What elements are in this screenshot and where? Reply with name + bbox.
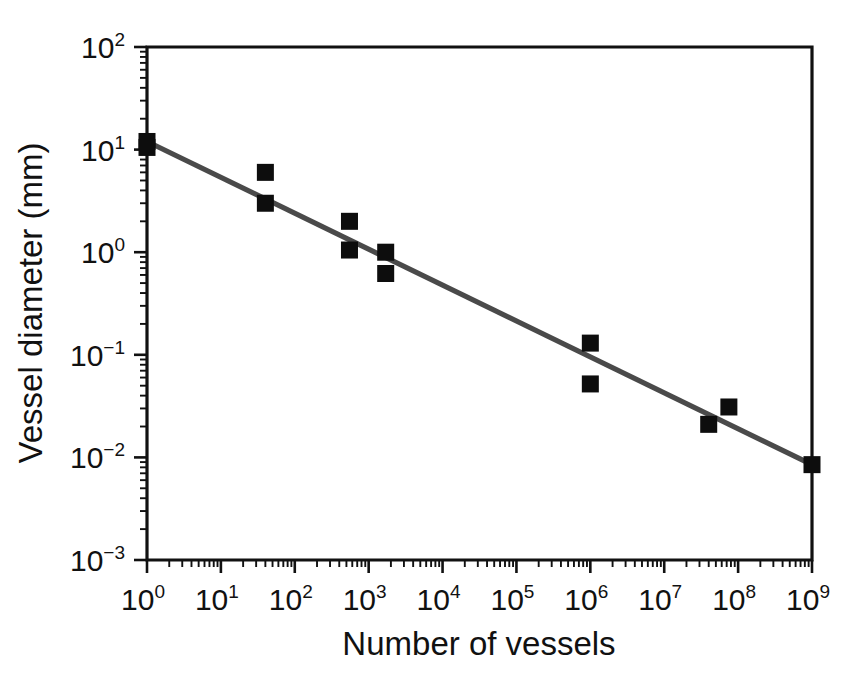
tick-label: 105 (490, 581, 534, 616)
data-point-marker (377, 244, 394, 261)
y-axis-title: Vessel diameter (mm) (12, 143, 49, 464)
y-tick-labels: 10210110010−110−210−3 (70, 29, 125, 577)
chart-figure: 100101102103104105106107108109 102101100… (0, 0, 862, 678)
data-point-marker (582, 375, 599, 392)
tick-label: 107 (638, 581, 682, 616)
tick-label: 109 (786, 581, 830, 616)
tick-label: 10−2 (70, 439, 125, 474)
x-axis-title: Number of vessels (342, 625, 615, 662)
tick-label: 100 (81, 234, 125, 269)
tick-label: 10−1 (70, 337, 125, 372)
data-point-marker (341, 242, 358, 259)
data-point-marker (341, 213, 358, 230)
x-tick-labels: 100101102103104105106107108109 (121, 581, 830, 616)
data-point-marker (700, 416, 717, 433)
major-tick-marks (134, 47, 812, 573)
data-point-marker (257, 195, 274, 212)
data-point-marker (804, 456, 821, 473)
data-point-marker (139, 139, 156, 156)
tick-label: 101 (81, 132, 125, 167)
tick-label: 101 (195, 581, 239, 616)
tick-label: 103 (343, 581, 387, 616)
tick-label: 102 (81, 29, 125, 64)
tick-label: 106 (564, 581, 608, 616)
tick-label: 104 (417, 581, 461, 616)
data-point-marker (582, 335, 599, 352)
scatter-plot-svg: 100101102103104105106107108109 102101100… (0, 0, 862, 678)
data-point-marker (720, 398, 737, 415)
tick-label: 10−3 (70, 542, 125, 577)
tick-label: 108 (712, 581, 756, 616)
minor-tick-marks (140, 52, 809, 567)
data-point-marker (377, 265, 394, 282)
data-point-marker (257, 164, 274, 181)
tick-label: 100 (121, 581, 165, 616)
tick-label: 102 (269, 581, 313, 616)
